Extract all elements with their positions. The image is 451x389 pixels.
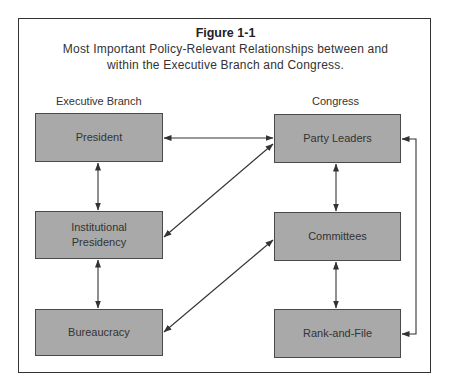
arrow-bureaucracy-committees — [164, 240, 273, 332]
arrow-institutional-party-leaders — [164, 144, 273, 237]
relationship-arrows — [0, 0, 451, 389]
arrow-party-leaders-rank-and-file — [402, 139, 416, 334]
